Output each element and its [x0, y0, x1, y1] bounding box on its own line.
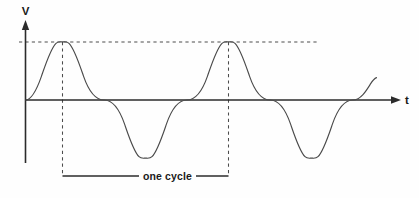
one-cycle-label: one cycle [143, 170, 192, 182]
voltage-axis-label: V [22, 5, 30, 17]
time-axis-arrowhead [391, 96, 401, 103]
voltage-axis-arrowhead [22, 20, 29, 30]
waveform-canvas: V t one cycle [0, 0, 419, 198]
time-axis-label: t [405, 94, 409, 106]
waveform-figure: V t one cycle [0, 0, 419, 198]
